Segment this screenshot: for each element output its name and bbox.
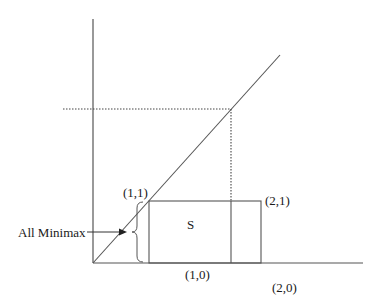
region-s-rectangle [149,201,261,263]
diagram-svg [0,0,382,299]
label-all-minimax: All Minimax [18,226,86,239]
label-point-2-1: (2,1) [265,194,290,207]
diagram-canvas: (1,1) (2,1) S (1,0) (2,0) All Minimax [0,0,382,299]
label-region-s: S [187,218,194,231]
label-point-2-0: (2,0) [272,281,297,294]
brace-icon [132,202,143,262]
label-point-1-0: (1,0) [185,268,210,281]
label-point-1-1: (1,1) [123,186,148,199]
